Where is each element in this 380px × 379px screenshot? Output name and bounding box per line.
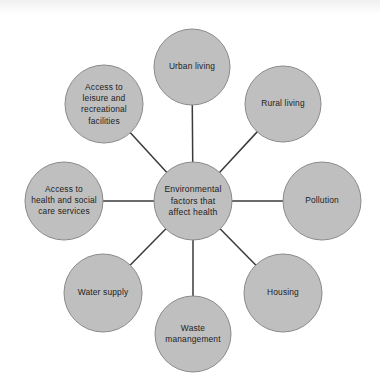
- connector-hub-to-access-to-leisure-and-recreational-facilities: [130, 132, 168, 173]
- node-circle-waste-manangement[interactable]: [155, 296, 231, 372]
- node-circle-housing[interactable]: [244, 254, 322, 332]
- node-layer: [25, 29, 361, 372]
- node-circle-access-to-leisure-and-recreational-facilities[interactable]: [65, 65, 143, 143]
- node-circle-urban-living[interactable]: [154, 29, 230, 105]
- hub-circle-environmental-factors[interactable]: [154, 162, 232, 240]
- node-circle-water-supply[interactable]: [64, 254, 142, 332]
- diagram-graphics: [0, 0, 380, 379]
- connector-hub-to-water-supply: [130, 228, 167, 266]
- connector-hub-to-housing: [220, 228, 257, 266]
- node-circle-rural-living[interactable]: [245, 66, 321, 142]
- node-circle-pollution[interactable]: [283, 162, 361, 240]
- connector-hub-to-rural-living: [219, 131, 258, 173]
- node-circle-access-to-health-and-social-care-services[interactable]: [25, 162, 103, 240]
- diagram-canvas: Urban livingRural livingPollutionHousing…: [0, 0, 380, 379]
